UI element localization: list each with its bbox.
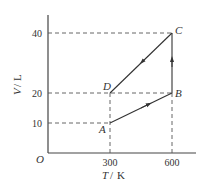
y-tick-10: 10	[32, 118, 42, 129]
point-label-c: C	[175, 24, 183, 36]
point-label-a: A	[98, 123, 106, 135]
vt-diagram: 40 20 10 300 600 O T / K V / L A B C D	[0, 0, 209, 192]
y-tick-20: 20	[32, 88, 42, 99]
y-axis-label: V / L	[11, 74, 23, 95]
point-label-b: B	[175, 87, 182, 99]
y-tick-40: 40	[32, 28, 42, 39]
svg-text:/: /	[11, 83, 23, 87]
arrow-ab-icon	[141, 104, 149, 108]
svg-text:T: T	[102, 169, 109, 181]
svg-text:L: L	[11, 74, 23, 81]
arrow-cd-icon	[142, 56, 148, 62]
origin-label: O	[36, 153, 44, 165]
svg-text:K: K	[117, 169, 125, 181]
process-cd	[110, 33, 172, 93]
x-axis-label: T / K	[102, 169, 125, 181]
x-tick-600: 600	[165, 157, 180, 168]
svg-text:V: V	[11, 87, 23, 95]
svg-text:/: /	[110, 169, 114, 181]
x-tick-300: 300	[103, 157, 118, 168]
point-label-d: D	[102, 80, 111, 92]
